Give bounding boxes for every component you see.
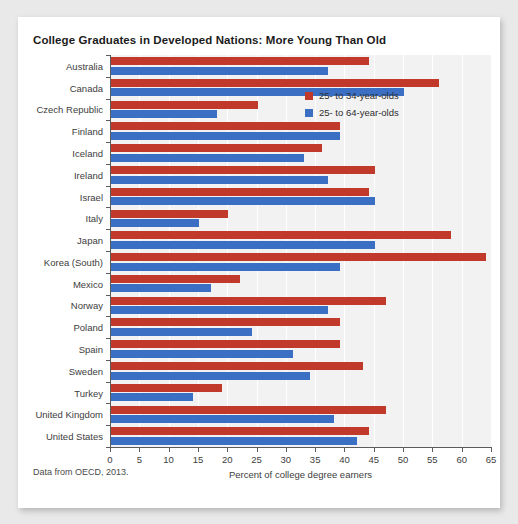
x-axis-tick	[344, 447, 345, 452]
y-axis-tick	[106, 142, 110, 143]
y-axis-tick	[106, 382, 110, 383]
x-axis-tick	[491, 447, 492, 452]
legend-item-young[interactable]: 25- to 34-year-olds	[305, 90, 399, 101]
bar-young[interactable]	[111, 406, 386, 414]
chart-row[interactable]: Sweden	[110, 360, 491, 382]
chart-row[interactable]: Poland	[110, 316, 491, 338]
y-axis-category-label: Mexico	[73, 278, 103, 289]
bar-young[interactable]	[111, 297, 386, 305]
x-axis-tick-label: 15	[193, 454, 204, 465]
x-axis-tick	[198, 447, 199, 452]
y-axis-category-label: Korea (South)	[44, 256, 103, 267]
x-axis-tick-label: 20	[222, 454, 233, 465]
bar-all-ages[interactable]	[111, 415, 334, 423]
x-axis-tick-label: 25	[251, 454, 262, 465]
y-axis-tick	[106, 273, 110, 274]
y-axis-category-label: Czech Republic	[36, 104, 103, 115]
chart-plot-wrapper: Percent of college degree earners 051015…	[110, 55, 491, 447]
y-axis-tick	[106, 338, 110, 339]
bar-all-ages[interactable]	[111, 176, 328, 184]
x-axis-tick-label: 65	[486, 454, 497, 465]
bar-all-ages[interactable]	[111, 132, 340, 140]
chart-row[interactable]: Mexico	[110, 273, 491, 295]
bar-all-ages[interactable]	[111, 241, 375, 249]
bar-all-ages[interactable]	[111, 154, 304, 162]
chart-row[interactable]: Canada	[110, 77, 491, 99]
bar-young[interactable]	[111, 384, 222, 392]
x-axis-tick	[286, 447, 287, 452]
bar-all-ages[interactable]	[111, 328, 252, 336]
x-axis-tick	[110, 447, 111, 452]
chart-row[interactable]: Australia	[110, 55, 491, 77]
x-axis-tick-label: 45	[368, 454, 379, 465]
bar-young[interactable]	[111, 340, 340, 348]
chart-row[interactable]: Japan	[110, 229, 491, 251]
bar-all-ages[interactable]	[111, 350, 293, 358]
bar-young[interactable]	[111, 210, 228, 218]
bar-all-ages[interactable]	[111, 219, 199, 227]
bar-young[interactable]	[111, 318, 340, 326]
bar-young[interactable]	[111, 362, 363, 370]
x-axis-tick-label: 10	[163, 454, 174, 465]
chart-row[interactable]: Iceland	[110, 142, 491, 164]
bar-young[interactable]	[111, 427, 369, 435]
bar-young[interactable]	[111, 231, 451, 239]
x-axis-tick	[315, 447, 316, 452]
y-axis-category-label: Spain	[79, 343, 103, 354]
bar-young[interactable]	[111, 188, 369, 196]
chart-row[interactable]: Norway	[110, 295, 491, 317]
bar-young[interactable]	[111, 57, 369, 65]
chart-row[interactable]: Turkey	[110, 382, 491, 404]
y-axis-category-label: United Kingdom	[35, 409, 103, 420]
y-axis-tick	[106, 447, 110, 448]
y-axis-tick	[106, 229, 110, 230]
bar-young[interactable]	[111, 79, 439, 87]
legend-label-all: 25- to 64-year-olds	[319, 107, 399, 118]
y-axis-category-label: Australia	[66, 60, 103, 71]
bar-all-ages[interactable]	[111, 306, 328, 314]
bar-young[interactable]	[111, 144, 322, 152]
chart-row[interactable]: Italy	[110, 207, 491, 229]
bar-all-ages[interactable]	[111, 393, 193, 401]
x-axis-tick	[432, 447, 433, 452]
chart-row[interactable]: Ireland	[110, 164, 491, 186]
y-axis-tick	[106, 360, 110, 361]
y-axis-tick	[106, 120, 110, 121]
bar-young[interactable]	[111, 101, 258, 109]
chart-row[interactable]: Spain	[110, 338, 491, 360]
y-axis-category-label: Japan	[77, 235, 103, 246]
y-axis-category-label: Turkey	[74, 387, 103, 398]
bar-young[interactable]	[111, 253, 486, 261]
x-axis-tick-label: 0	[107, 454, 112, 465]
chart-row[interactable]: United Kingdom	[110, 403, 491, 425]
bar-all-ages[interactable]	[111, 372, 310, 380]
legend-item-all[interactable]: 25- to 64-year-olds	[305, 107, 399, 118]
bar-all-ages[interactable]	[111, 67, 328, 75]
y-axis-tick	[106, 295, 110, 296]
x-axis-tick	[139, 447, 140, 452]
bar-all-ages[interactable]	[111, 263, 340, 271]
bar-all-ages[interactable]	[111, 284, 211, 292]
x-axis-tick	[403, 447, 404, 452]
chart-row[interactable]: Czech Republic	[110, 99, 491, 121]
bar-young[interactable]	[111, 275, 240, 283]
bar-young[interactable]	[111, 166, 375, 174]
y-axis-category-label: Sweden	[69, 365, 103, 376]
chart-row[interactable]: Finland	[110, 120, 491, 142]
bar-all-ages[interactable]	[111, 437, 357, 445]
y-axis-tick	[106, 186, 110, 187]
x-axis-tick	[462, 447, 463, 452]
y-axis-tick	[106, 77, 110, 78]
y-axis-category-label: Poland	[73, 322, 103, 333]
bar-all-ages[interactable]	[111, 197, 375, 205]
x-axis-line	[110, 447, 491, 448]
x-axis-tick-label: 55	[427, 454, 438, 465]
chart-row[interactable]: United States	[110, 425, 491, 447]
chart-row[interactable]: Korea (South)	[110, 251, 491, 273]
y-axis-category-label: Ireland	[74, 169, 103, 180]
bar-all-ages[interactable]	[111, 110, 217, 118]
y-axis-tick	[106, 207, 110, 208]
x-axis-tick-label: 60	[456, 454, 467, 465]
chart-row[interactable]: Israel	[110, 186, 491, 208]
legend-swatch-blue	[305, 109, 313, 117]
